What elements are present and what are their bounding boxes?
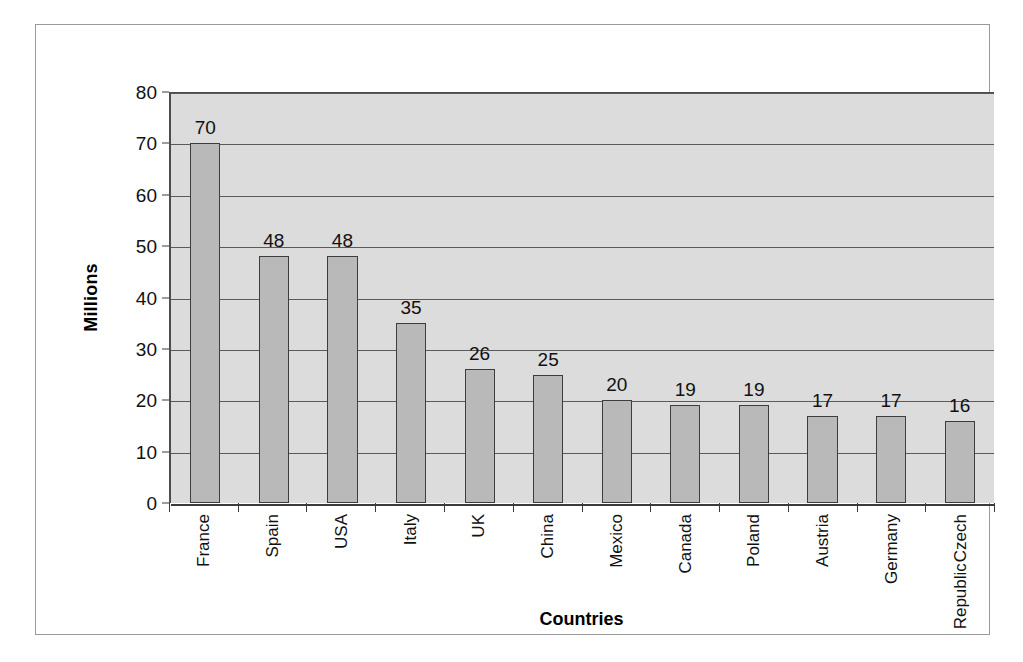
x-label-line: Czech	[950, 514, 969, 562]
y-tick-label: 50	[136, 237, 162, 256]
x-label-mexico: Mexico	[606, 514, 625, 568]
x-tick-mark	[444, 503, 445, 512]
y-tick-80: 80	[136, 83, 169, 102]
bar-value-label: 20	[606, 375, 627, 394]
x-label-slot: France	[169, 514, 238, 606]
x-label-slot: Canada	[650, 514, 719, 606]
y-tick-mark	[162, 400, 169, 401]
x-label-italy: Italy	[400, 514, 419, 545]
y-tick-label: 40	[136, 288, 162, 307]
x-label-slot: Mexico	[582, 514, 651, 606]
bar-uk[interactable]: 26	[465, 369, 495, 503]
bar-china[interactable]: 25	[533, 375, 563, 503]
x-axis-labels: FranceSpainUSAItalyUKChinaMexicoCanadaPo…	[169, 514, 994, 606]
y-tick-20: 20	[136, 391, 169, 410]
x-tick-mark	[925, 503, 926, 512]
x-label-usa: USA	[331, 514, 350, 549]
bar-slot: 17	[788, 93, 857, 503]
bar-slot: 70	[171, 93, 240, 503]
x-label-france: France	[194, 514, 213, 567]
y-axis-title: Millions	[78, 92, 104, 503]
y-tick-label: 10	[136, 442, 162, 461]
bar-value-label: 17	[880, 391, 901, 410]
bar-canada[interactable]: 19	[670, 405, 700, 503]
y-tick-label: 60	[136, 185, 162, 204]
x-label-austria: Austria	[813, 514, 832, 567]
figure-frame: Millions 80706050403020100 7048483526252…	[35, 24, 990, 635]
y-tick-label: 80	[136, 83, 162, 102]
x-label-slot: USA	[307, 514, 376, 606]
bar-slot: 48	[308, 93, 377, 503]
bar-value-label: 25	[538, 350, 559, 369]
bar-slot: 25	[514, 93, 583, 503]
bar-spain[interactable]: 48	[259, 256, 289, 503]
bar-italy[interactable]: 35	[396, 323, 426, 503]
x-label-slot: Austria	[788, 514, 857, 606]
bar-czech-republic[interactable]: 16	[945, 421, 975, 503]
bar-value-label: 70	[195, 118, 216, 137]
bar-value-label: 35	[400, 298, 421, 317]
y-axis: 80706050403020100	[129, 92, 169, 503]
x-label-slot: CzechRepublic	[925, 514, 994, 606]
y-tick-label: 20	[136, 391, 162, 410]
bar-slot: 48	[240, 93, 309, 503]
x-label-slot: Germany	[857, 514, 926, 606]
bar-value-label: 16	[949, 396, 970, 415]
y-tick-0: 0	[146, 494, 169, 513]
plot-area: 704848352625201919171716	[169, 92, 994, 503]
bar-austria[interactable]: 17	[807, 416, 837, 503]
bar-slot: 19	[651, 93, 720, 503]
x-axis-title: Countries	[169, 609, 994, 630]
bar-value-label: 19	[743, 380, 764, 399]
y-axis-title-text: Millions	[81, 263, 102, 332]
x-tick-mark	[169, 503, 170, 512]
y-tick-60: 60	[136, 185, 169, 204]
bar-value-label: 48	[263, 231, 284, 250]
y-tick-mark	[162, 143, 169, 144]
x-label-uk: UK	[469, 514, 488, 538]
bar-poland[interactable]: 19	[739, 405, 769, 503]
y-tick-40: 40	[136, 288, 169, 307]
x-tick-mark	[306, 503, 307, 512]
bar-slot: 19	[720, 93, 789, 503]
chart-page: Millions 80706050403020100 7048483526252…	[0, 0, 1023, 662]
x-tick-mark	[650, 503, 651, 512]
y-tick-mark	[162, 297, 169, 298]
y-tick-10: 10	[136, 442, 169, 461]
bar-mexico[interactable]: 20	[602, 400, 632, 503]
x-label-slot: Poland	[719, 514, 788, 606]
x-label-germany: Germany	[881, 514, 900, 584]
x-axis-ticks	[169, 503, 994, 512]
x-tick-mark	[719, 503, 720, 512]
y-tick-mark	[162, 503, 169, 504]
y-tick-50: 50	[136, 237, 169, 256]
x-label-slot: UK	[444, 514, 513, 606]
x-label-canada: Canada	[675, 514, 694, 574]
x-tick-mark	[238, 503, 239, 512]
y-tick-70: 70	[136, 134, 169, 153]
x-tick-mark	[788, 503, 789, 512]
x-tick-mark	[582, 503, 583, 512]
bar-usa[interactable]: 48	[327, 256, 357, 503]
x-label-slot: China	[513, 514, 582, 606]
y-tick-30: 30	[136, 339, 169, 358]
y-tick-mark	[162, 348, 169, 349]
bar-france[interactable]: 70	[190, 143, 220, 503]
x-tick-mark	[513, 503, 514, 512]
x-label-china: China	[538, 514, 557, 558]
bar-value-label: 26	[469, 344, 490, 363]
bar-slot: 17	[857, 93, 926, 503]
bar-slot: 35	[377, 93, 446, 503]
bar-germany[interactable]: 17	[876, 416, 906, 503]
x-tick-mark	[375, 503, 376, 512]
x-tick-mark	[857, 503, 858, 512]
y-tick-mark	[162, 194, 169, 195]
x-label-spain: Spain	[263, 514, 282, 557]
bar-value-label: 17	[812, 391, 833, 410]
x-tick-mark	[994, 503, 995, 512]
bars-container: 704848352625201919171716	[171, 93, 994, 503]
bar-value-label: 19	[675, 380, 696, 399]
y-tick-label: 70	[136, 134, 162, 153]
y-tick-label: 0	[146, 494, 162, 513]
bar-slot: 20	[582, 93, 651, 503]
